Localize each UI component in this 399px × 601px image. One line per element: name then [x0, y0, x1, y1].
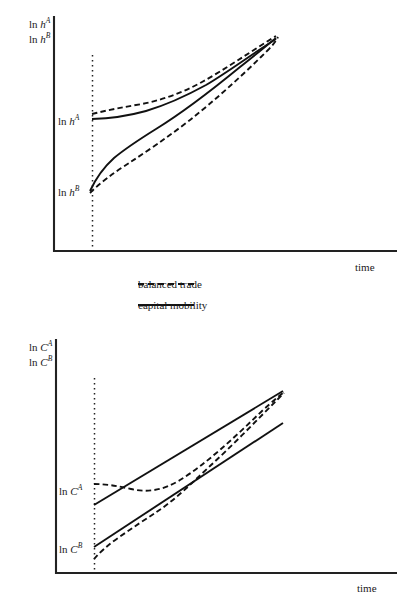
bottom-y-axis-label-line1-prefix: ln [29, 341, 40, 353]
bottom-tick-CA-sup: A [78, 483, 83, 492]
top-tick-hA-sup: A [75, 113, 80, 122]
bottom-tick-CA-prefix: ln [59, 485, 70, 497]
bottom-y-axis-label-line2-sup: B [48, 354, 53, 363]
bottom-panel-curves [94, 391, 284, 559]
top-tick-hB-prefix: ln [58, 186, 69, 198]
bottom-tick-label-CB: ln CB [59, 539, 82, 556]
legend-item-capital-mobility: = capital mobility [138, 304, 194, 306]
curve-hA-balanced-trade [92, 36, 276, 114]
bottom-y-axis-label-line2: ln CB [29, 352, 52, 369]
bottom-y-axis-label-line1-var: C [40, 341, 47, 353]
top-y-axis-label-line2-prefix: ln [29, 33, 40, 45]
top-tick-hB-sup: B [75, 184, 80, 193]
bottom-tick-label-CA: ln CA [59, 481, 82, 498]
line-CB-capital-mobility [94, 423, 283, 547]
top-panel-axes [53, 16, 397, 252]
top-tick-label-hB: ln hB [58, 182, 79, 199]
bottom-y-axis-label-line2-prefix: ln [29, 356, 40, 368]
legend-label-capital-mobility: capital mobility [138, 299, 207, 312]
top-tick-hA-prefix: ln [58, 115, 69, 127]
top-y-axis-label-line1-prefix: ln [29, 18, 40, 30]
curve-hB-capital-mobility [90, 38, 276, 191]
legend-item-balanced-trade: = balanced trade [138, 283, 194, 285]
top-panel-curves [90, 36, 278, 193]
curve-hA-capital-mobility [92, 39, 276, 119]
bottom-tick-CB-sup: B [78, 541, 83, 550]
top-y-axis-label-line2-sup: B [46, 31, 51, 40]
top-y-axis-label-line2: ln hB [29, 29, 50, 46]
bottom-y-axis-label-line1-sup: A [48, 339, 53, 348]
bottom-tick-CB-prefix: ln [59, 543, 70, 555]
bottom-y-axis-label-line2-var: C [40, 356, 47, 368]
bottom-tick-CB-var: C [70, 543, 77, 555]
figure-container: ln hA ln hB ln hA ln hB time = balanced … [0, 0, 399, 601]
top-x-axis-label: time [355, 261, 375, 274]
top-tick-label-hA: ln hA [58, 111, 79, 128]
bottom-x-axis-label: time [357, 582, 377, 595]
bottom-tick-CA-var: C [70, 485, 77, 497]
top-y-axis-label-line1-sup: A [46, 16, 51, 25]
legend-label-balanced-trade: balanced trade [138, 278, 202, 291]
